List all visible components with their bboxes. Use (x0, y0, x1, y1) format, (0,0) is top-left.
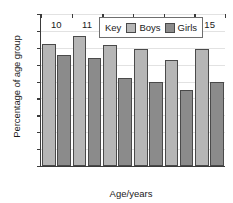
bar-chart: Percentage of age group 0102030405060708… (0, 0, 233, 203)
bar-girls-13 (149, 82, 163, 166)
bar-girls-15 (210, 82, 224, 166)
legend-entry-boys: Boys (126, 22, 160, 33)
x-axis-title: Age/years (36, 188, 226, 199)
bar-boys-14 (165, 60, 179, 166)
legend-label-boys: Boys (139, 22, 160, 33)
legend-swatch-girls (165, 23, 175, 33)
bar-boys-11 (73, 36, 87, 166)
legend-label-girls: Girls (178, 22, 198, 33)
bar-girls-12 (118, 78, 132, 166)
bar-boys-13 (134, 49, 148, 166)
legend-entry-girls: Girls (165, 22, 198, 33)
y-tick-mark (37, 115, 41, 116)
x-tick-mark (72, 14, 73, 18)
y-tick-mark (37, 132, 41, 133)
x-tick-mark (41, 14, 42, 18)
bar-girls-11 (88, 58, 102, 166)
y-tick-mark (37, 98, 41, 99)
y-tick-mark (37, 82, 41, 83)
bar-boys-10 (42, 44, 56, 166)
x-tick-mark (225, 14, 226, 18)
x-tick-label: 10 (39, 19, 73, 30)
y-tick-mark (37, 65, 41, 66)
chart-legend: Key Boys Girls (99, 17, 203, 38)
y-tick-mark (37, 166, 41, 167)
legend-swatch-boys (126, 23, 136, 33)
y-axis-title: Percentage of age group (11, 9, 22, 164)
bar-boys-12 (103, 45, 117, 166)
bar-girls-10 (57, 55, 71, 166)
bar-girls-14 (180, 90, 194, 166)
y-tick-mark (37, 31, 41, 32)
y-tick-mark (37, 149, 41, 150)
bar-boys-15 (195, 49, 209, 166)
legend-key-label: Key (105, 22, 121, 33)
y-tick-mark (37, 48, 41, 49)
